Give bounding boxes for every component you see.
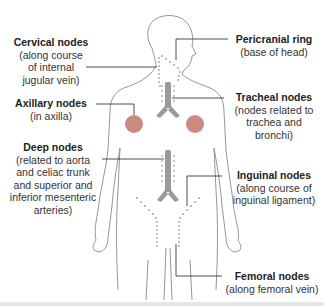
leader-femoral	[176, 244, 222, 276]
femoral-title: Femoral nodes	[220, 270, 324, 283]
deep-desc: (related to aorta and celiac trunk and s…	[6, 154, 100, 217]
axillary-title: Axillary nodes	[4, 97, 98, 110]
cervical-title: Cervical nodes	[6, 36, 96, 49]
femoral-dots	[156, 221, 180, 247]
label-inguinal-nodes: Inguinal nodes (along course of inguinal…	[224, 169, 324, 207]
label-tracheal-nodes: Tracheal nodes (nodes related to trachea…	[224, 91, 324, 141]
femoral-desc: (along femoral vein)	[220, 283, 324, 296]
label-axillary-nodes: Axillary nodes (in axilla)	[4, 97, 98, 122]
tracheal-desc: (nodes related to trachea and bronchi)	[224, 104, 324, 142]
pericranial-title: Pericranial ring	[226, 33, 322, 46]
axillary-node-left	[125, 115, 143, 133]
label-pericranial-ring: Pericranial ring (base of head)	[226, 33, 322, 58]
label-cervical-nodes: Cervical nodes (along course of internal…	[6, 36, 96, 86]
label-deep-nodes: Deep nodes (related to aorta and celiac …	[6, 141, 100, 216]
aorta	[157, 150, 179, 202]
trachea	[156, 82, 180, 118]
lymph-node-diagram: Cervical nodes (along course of internal…	[0, 0, 324, 306]
pericranial-desc: (base of head)	[226, 46, 322, 59]
inguinal-desc: (along course of inguinal ligament)	[224, 182, 324, 207]
bottom-divider	[0, 302, 324, 306]
leader-pericranial	[176, 39, 228, 60]
axillary-node-right	[186, 115, 204, 133]
deep-title: Deep nodes	[6, 141, 100, 154]
tracheal-title: Tracheal nodes	[224, 91, 324, 104]
inguinal-dots	[136, 197, 200, 219]
inguinal-title: Inguinal nodes	[224, 169, 324, 182]
axillary-desc: (in axilla)	[4, 110, 98, 123]
leader-axillary	[96, 104, 134, 115]
label-femoral-nodes: Femoral nodes (along femoral vein)	[220, 270, 324, 295]
cervical-desc: (along course of internal jugular vein)	[6, 49, 96, 87]
